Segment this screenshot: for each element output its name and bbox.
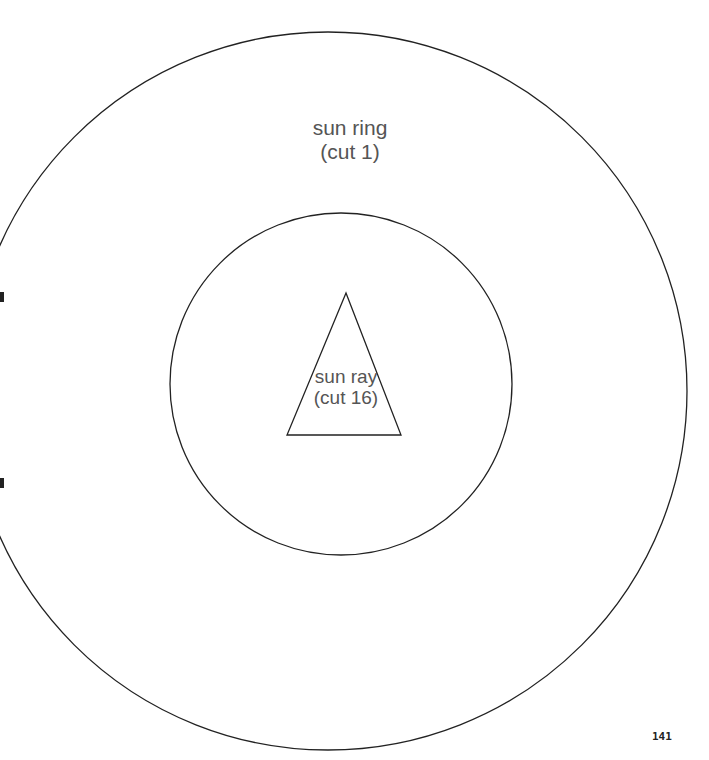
- binding-mark-top: [0, 292, 4, 302]
- sun-ring-label: sun ring (cut 1): [255, 116, 445, 163]
- binding-mark-bottom: [0, 478, 4, 488]
- sun-ray-triangle: [287, 293, 401, 435]
- sun-ring-name: sun ring: [255, 116, 445, 140]
- sun-ray-label: sun ray (cut 16): [286, 366, 406, 409]
- sun-ring-cut-count: (cut 1): [255, 140, 445, 164]
- page-number: 141: [652, 730, 672, 743]
- sun-ray-cut-count: (cut 16): [286, 387, 406, 408]
- sun-ray-name: sun ray: [286, 366, 406, 387]
